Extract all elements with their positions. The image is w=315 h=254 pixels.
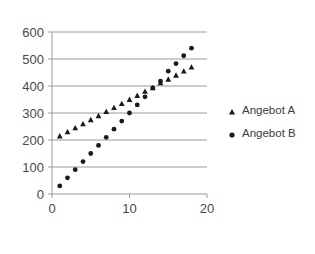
data-point [142, 89, 148, 94]
legend-label-angebot-b: Angebot B [242, 127, 296, 140]
data-point [103, 109, 109, 114]
data-point [73, 167, 78, 172]
data-point [181, 53, 186, 58]
legend-label-angebot-a: Angebot A [242, 104, 295, 117]
y-tick-label: 500 [22, 52, 44, 67]
data-point [104, 135, 109, 140]
data-point [127, 111, 132, 116]
data-point [72, 125, 78, 130]
y-axis-tick-labels: 0100200300400500600 [22, 25, 44, 202]
data-point [189, 64, 195, 69]
data-point [57, 133, 63, 138]
data-point [119, 119, 124, 124]
data-point [174, 61, 179, 66]
data-point [189, 46, 194, 51]
triangle-marker-icon [227, 105, 237, 117]
data-point [65, 175, 70, 180]
data-point [111, 105, 117, 110]
chart-legend: Angebot A Angebot B [227, 99, 315, 145]
y-tick-label: 200 [22, 133, 44, 148]
y-tick-marks [48, 32, 52, 194]
data-point [88, 117, 94, 122]
y-tick-label: 600 [22, 25, 44, 40]
data-point [57, 184, 62, 189]
series-angebot-a-points [57, 64, 195, 138]
x-tick-label: 0 [48, 201, 55, 216]
data-point [134, 93, 140, 98]
data-point [96, 113, 102, 118]
data-point [143, 94, 148, 99]
legend-item-angebot-b[interactable]: Angebot B [227, 122, 315, 145]
data-point [88, 151, 93, 156]
chart-container: 0100200300400500600 01020 Angebot A Ange… [0, 0, 315, 254]
data-point [80, 121, 86, 126]
data-point [135, 103, 140, 108]
data-point [158, 79, 163, 84]
data-point [165, 76, 171, 81]
circle-marker-icon [227, 128, 237, 140]
data-point [119, 101, 125, 106]
data-point [65, 129, 71, 134]
legend-item-angebot-a[interactable]: Angebot A [227, 99, 315, 122]
y-tick-label: 0 [37, 187, 44, 202]
data-point [81, 159, 86, 164]
x-tick-marks [52, 194, 207, 198]
x-axis-tick-labels: 01020 [48, 201, 214, 216]
data-point [181, 68, 187, 73]
data-point [112, 127, 117, 132]
data-point [150, 85, 155, 90]
x-tick-label: 20 [200, 201, 214, 216]
x-tick-label: 10 [122, 201, 136, 216]
data-point [127, 97, 133, 102]
data-point [96, 143, 101, 148]
data-point [166, 69, 171, 74]
data-point [173, 72, 179, 77]
y-tick-label: 300 [22, 106, 44, 121]
y-tick-label: 100 [22, 160, 44, 175]
y-tick-label: 400 [22, 79, 44, 94]
